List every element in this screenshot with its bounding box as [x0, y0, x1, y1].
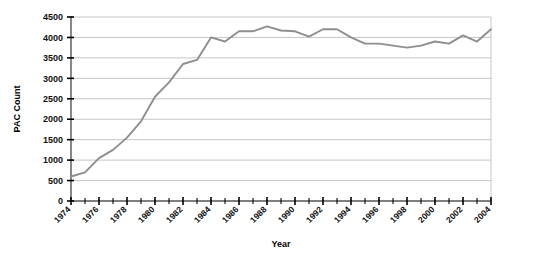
y-tick-label-0: 0 — [58, 196, 63, 206]
pac-count-line-chart: 050010001500200025003000350040004500 197… — [0, 0, 533, 261]
y-tick-label-1000: 1000 — [43, 155, 63, 165]
x-axis-title: Year — [271, 239, 291, 249]
plot-area-background — [71, 17, 491, 201]
y-axis-title: PAC Count — [12, 86, 22, 133]
y-tick-label-4000: 4000 — [43, 33, 63, 43]
chart-figure: 050010001500200025003000350040004500 197… — [0, 0, 533, 261]
y-tick-label-1500: 1500 — [43, 135, 63, 145]
y-tick-label-2500: 2500 — [43, 94, 63, 104]
y-tick-label-4500: 4500 — [43, 12, 63, 22]
y-tick-label-500: 500 — [48, 176, 63, 186]
y-tick-label-3000: 3000 — [43, 74, 63, 84]
y-tick-label-3500: 3500 — [43, 53, 63, 63]
y-tick-label-2000: 2000 — [43, 114, 63, 124]
